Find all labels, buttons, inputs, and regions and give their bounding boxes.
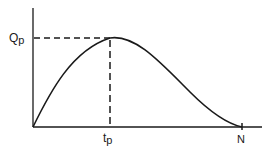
end-label: N: [237, 133, 245, 145]
time-to-peak-label-sub: p: [106, 134, 112, 146]
peak-discharge-label-sub: p: [18, 34, 24, 46]
hydrograph-curve: [33, 38, 242, 127]
time-to-peak-label: tp: [103, 131, 112, 146]
hydrograph-diagram: Qp tp N: [0, 0, 275, 151]
peak-discharge-label-main: Q: [9, 31, 18, 45]
peak-discharge-label: Qp: [9, 31, 24, 46]
